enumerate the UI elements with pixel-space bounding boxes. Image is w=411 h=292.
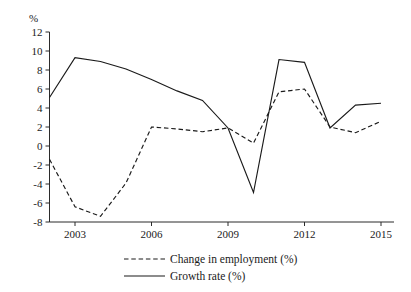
y-axis-tick-label: -4: [33, 178, 43, 190]
y-axis-tick-label: 12: [32, 26, 43, 38]
y-axis: 121086420-2-4-6-8: [32, 26, 50, 228]
x-axis-tick-label: 2003: [64, 228, 87, 240]
series-line-2: [50, 58, 382, 193]
x-axis-tick-label: 2012: [294, 228, 316, 240]
x-axis-tick-label: 2015: [370, 228, 393, 240]
x-axis: 20032006200920122015: [50, 222, 395, 240]
legend-label-1: Change in employment (%): [170, 253, 298, 266]
x-axis-tick-label: 2009: [217, 228, 240, 240]
y-axis-tick-label: 10: [32, 45, 44, 57]
chart-container: 121086420-2-4-6-8 20032006200920122015 C…: [0, 0, 411, 292]
legend-label-2: Growth rate (%): [170, 270, 246, 283]
y-axis-tick-label: -6: [33, 197, 43, 209]
y-axis-tick-label: -2: [33, 159, 42, 171]
series-lines: [50, 58, 382, 217]
x-axis-tick-label: 2006: [141, 228, 164, 240]
y-axis-tick-label: 8: [37, 64, 43, 76]
series-line-1: [50, 89, 382, 216]
y-axis-tick-label: -8: [33, 216, 43, 228]
chart-legend: Change in employment (%)Growth rate (%): [124, 253, 298, 283]
y-axis-tick-label: 4: [37, 102, 43, 114]
y-axis-label: %: [29, 12, 38, 24]
line-chart: 121086420-2-4-6-8 20032006200920122015 C…: [0, 0, 411, 292]
y-axis-tick-label: 6: [37, 83, 43, 95]
y-axis-tick-label: 2: [37, 121, 43, 133]
y-axis-tick-label: 0: [37, 140, 43, 152]
